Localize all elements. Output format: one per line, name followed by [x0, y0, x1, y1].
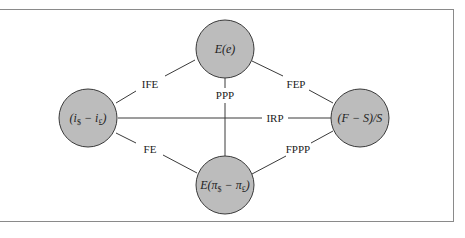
- edge-fe-lower: [163, 155, 197, 173]
- edge-fep-upper: [252, 61, 283, 76]
- edge-label-fep: FEP: [287, 78, 306, 90]
- edge-fep-lower: [309, 90, 333, 103]
- node-interest-differential: (i$ − i£): [59, 89, 117, 147]
- edge-label-ppp: PPP: [216, 89, 234, 101]
- edge-ife-upper: [116, 91, 136, 103]
- edge-fppp-lower: [252, 156, 286, 174]
- edge-label-fppp: FPPP: [286, 143, 310, 155]
- node-forward-premium: (F − S)/S: [331, 89, 389, 147]
- svg-text:E(e): E(e): [214, 42, 236, 56]
- edge-label-ife: IFE: [142, 78, 159, 90]
- node-inflation-differential: E(π$ − π£): [196, 156, 254, 214]
- edge-ife-lower: [165, 60, 195, 76]
- node-expected-change: E(e): [196, 20, 254, 78]
- svg-text:(F − S)/S: (F − S)/S: [338, 111, 383, 125]
- edge-label-irp: IRP: [266, 112, 283, 124]
- parity-diagram: IFE FEP PPP IRP FE FPPP E(e) (i$ − i£) (…: [0, 0, 465, 238]
- edge-fe-upper: [116, 133, 136, 143]
- edge-fppp-upper: [311, 131, 333, 143]
- edge-label-fe: FE: [144, 143, 157, 155]
